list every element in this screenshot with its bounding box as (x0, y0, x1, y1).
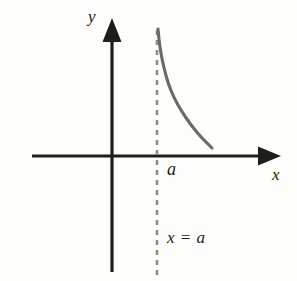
y-axis-arrowhead-icon (103, 18, 122, 42)
asymptote-figure: ) y x a x = a (0, 0, 297, 281)
coordinate-plane-canvas (0, 0, 297, 281)
y-axis-label: y (88, 8, 96, 25)
y-axis-group (103, 18, 122, 272)
x-axis-arrowhead-icon (258, 147, 281, 166)
x-axis-label: x (272, 166, 280, 183)
decaying-branch-curve (158, 29, 212, 148)
point-a-label: a (167, 160, 176, 178)
asymptote-equation-label: x = a (167, 229, 206, 246)
